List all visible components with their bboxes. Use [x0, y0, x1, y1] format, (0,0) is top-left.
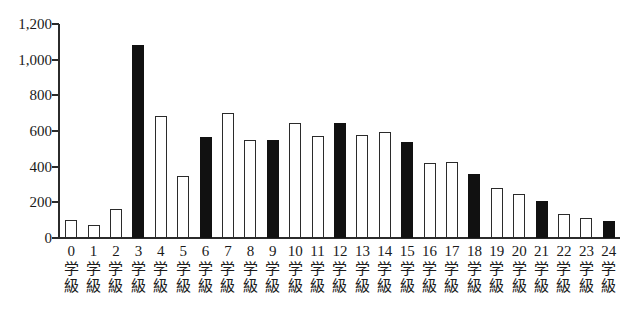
x-tick-number: 21 — [530, 242, 552, 261]
x-tick-number: 0 — [60, 242, 82, 261]
x-tick-unit-char-1: 学 — [262, 261, 284, 278]
x-tick-unit-char-2: 級 — [486, 278, 508, 295]
x-tick-unit-char-1: 学 — [127, 261, 149, 278]
x-tick-label-group: 5学級 — [172, 242, 194, 295]
x-tick-number: 4 — [150, 242, 172, 261]
x-tick-number: 22 — [553, 242, 575, 261]
x-tick-label-group: 10学級 — [284, 242, 306, 295]
x-tick-number: 20 — [508, 242, 530, 261]
y-tick-mark — [52, 201, 59, 203]
x-tick-unit-char-2: 級 — [351, 278, 373, 295]
y-tick-label: 1,000 — [0, 52, 52, 67]
y-tick-label: 200 — [0, 195, 52, 210]
x-tick-unit-char-1: 学 — [150, 261, 172, 278]
x-tick-label-group: 24学級 — [598, 242, 620, 295]
x-tick-number: 18 — [463, 242, 485, 261]
x-tick-unit-char-1: 学 — [463, 261, 485, 278]
y-axis-tick-labels: 02004006008001,0001,200 — [0, 0, 52, 313]
x-tick-unit-char-1: 学 — [396, 261, 418, 278]
x-tick-unit-char-1: 学 — [82, 261, 104, 278]
x-tick-unit-char-1: 学 — [553, 261, 575, 278]
x-tick-label-group: 22学級 — [553, 242, 575, 295]
bar — [580, 218, 592, 238]
bar — [65, 220, 77, 238]
x-tick-number: 2 — [105, 242, 127, 261]
x-tick-unit-char-1: 学 — [575, 261, 597, 278]
bar — [491, 188, 503, 238]
x-tick-label-group: 15学級 — [396, 242, 418, 295]
x-tick-number: 16 — [418, 242, 440, 261]
y-tick-label: 600 — [0, 124, 52, 139]
x-tick-unit-char-2: 級 — [105, 278, 127, 295]
x-tick-unit-char-2: 級 — [441, 278, 463, 295]
x-tick-number: 24 — [598, 242, 620, 261]
bar — [289, 123, 301, 238]
x-tick-label-group: 4学級 — [150, 242, 172, 295]
x-tick-number: 13 — [351, 242, 373, 261]
bar — [200, 137, 212, 238]
bar — [558, 214, 570, 238]
x-tick-number: 15 — [396, 242, 418, 261]
x-tick-unit-char-2: 級 — [508, 278, 530, 295]
x-tick-unit-char-1: 学 — [239, 261, 261, 278]
x-tick-number: 7 — [217, 242, 239, 261]
y-tick-mark — [52, 166, 59, 168]
x-tick-unit-char-1: 学 — [486, 261, 508, 278]
x-tick-label-group: 8学級 — [239, 242, 261, 295]
x-tick-label-group: 20学級 — [508, 242, 530, 295]
x-axis-tick-labels: 0学級1学級2学級3学級4学級5学級6学級7学級8学級9学級10学級11学級12… — [60, 242, 620, 313]
bar — [88, 225, 100, 238]
x-tick-number: 9 — [262, 242, 284, 261]
bar — [424, 163, 436, 238]
bar — [334, 123, 346, 238]
x-tick-unit-char-2: 級 — [553, 278, 575, 295]
bar — [244, 140, 256, 238]
x-tick-number: 19 — [486, 242, 508, 261]
x-tick-unit-char-1: 学 — [194, 261, 216, 278]
x-tick-number: 14 — [374, 242, 396, 261]
x-tick-label-group: 2学級 — [105, 242, 127, 295]
bar — [446, 162, 458, 238]
bar — [222, 113, 234, 238]
x-tick-unit-char-2: 級 — [396, 278, 418, 295]
x-tick-unit-char-2: 級 — [60, 278, 82, 295]
x-tick-unit-char-2: 級 — [284, 278, 306, 295]
x-tick-unit-char-1: 学 — [508, 261, 530, 278]
y-tick-label: 800 — [0, 88, 52, 103]
x-tick-label-group: 13学級 — [351, 242, 373, 295]
x-tick-unit-char-2: 級 — [217, 278, 239, 295]
x-tick-number: 23 — [575, 242, 597, 261]
bar — [356, 135, 368, 238]
x-tick-unit-char-2: 級 — [306, 278, 328, 295]
bar — [603, 221, 615, 238]
y-tick-label: 400 — [0, 159, 52, 174]
x-tick-number: 11 — [306, 242, 328, 261]
x-tick-number: 10 — [284, 242, 306, 261]
bar — [132, 45, 144, 238]
x-tick-unit-char-1: 学 — [374, 261, 396, 278]
x-tick-unit-char-2: 級 — [575, 278, 597, 295]
x-tick-label-group: 17学級 — [441, 242, 463, 295]
x-tick-label-group: 18学級 — [463, 242, 485, 295]
bar — [312, 136, 324, 238]
bar — [468, 174, 480, 238]
x-tick-number: 17 — [441, 242, 463, 261]
y-tick-label: 0 — [0, 231, 52, 246]
x-tick-unit-char-1: 学 — [530, 261, 552, 278]
x-tick-label-group: 1学級 — [82, 242, 104, 295]
y-tick-mark — [52, 23, 59, 25]
x-tick-unit-char-1: 学 — [351, 261, 373, 278]
y-tick-mark — [52, 237, 59, 239]
x-tick-label-group: 16学級 — [418, 242, 440, 295]
bar — [513, 194, 525, 238]
x-tick-unit-char-2: 級 — [262, 278, 284, 295]
x-tick-unit-char-2: 級 — [374, 278, 396, 295]
y-tick-label: 1,200 — [0, 17, 52, 32]
x-tick-unit-char-2: 級 — [82, 278, 104, 295]
x-tick-unit-char-1: 学 — [598, 261, 620, 278]
x-tick-unit-char-1: 学 — [306, 261, 328, 278]
x-tick-unit-char-1: 学 — [60, 261, 82, 278]
x-tick-label-group: 19学級 — [486, 242, 508, 295]
x-tick-label-group: 21学級 — [530, 242, 552, 295]
x-tick-label-group: 9学級 — [262, 242, 284, 295]
